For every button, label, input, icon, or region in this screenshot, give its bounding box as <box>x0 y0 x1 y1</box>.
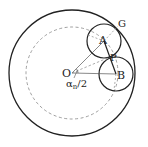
label-b: B <box>117 69 125 82</box>
geometry-diagram: O A B P G αn/2 <box>0 0 148 147</box>
label-p: P <box>110 52 117 63</box>
angle-leader <box>74 71 77 78</box>
label-angle: αn/2 <box>66 78 87 91</box>
line-b-down <box>114 74 116 90</box>
label-g: G <box>118 18 126 29</box>
label-a: A <box>98 34 108 47</box>
angle-tail: /2 <box>77 78 87 89</box>
line-ob <box>72 73 116 74</box>
